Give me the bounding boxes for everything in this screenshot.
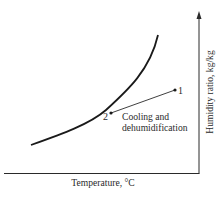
y-axis-arrow-icon: [197, 11, 202, 19]
process-label-line1: Cooling and: [122, 111, 169, 122]
state-point-2: [109, 111, 112, 114]
point-2-label: 2: [103, 111, 108, 122]
point-1-label: 1: [178, 85, 183, 96]
process-label-line2: dehumidification: [122, 122, 188, 133]
y-axis-label: Humidity ratio, kg/kg: [204, 50, 215, 134]
process-line: [111, 90, 175, 113]
state-point-1: [173, 88, 176, 91]
x-axis-label: Temperature, °C: [71, 177, 134, 188]
psychrometric-diagram: 1 2 Cooling and dehumidification Tempera…: [0, 0, 222, 199]
